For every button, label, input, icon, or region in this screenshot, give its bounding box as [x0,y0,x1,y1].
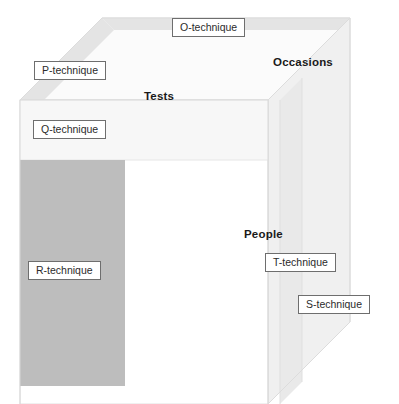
axis-label-tests: Tests [144,90,174,102]
cube-right-slab [280,78,302,404]
technique-box-p[interactable]: P-technique [34,61,106,80]
axis-label-occasions: Occasions [273,56,333,68]
technique-box-t[interactable]: T-technique [265,253,336,272]
technique-box-r[interactable]: R-technique [28,261,101,280]
technique-box-o[interactable]: O-technique [172,18,245,37]
technique-box-q[interactable]: Q-technique [33,120,106,139]
technique-box-s[interactable]: S-technique [298,295,370,314]
data-box-diagram: Tests Occasions People O-technique P-tec… [0,0,399,404]
axis-label-people: People [244,228,283,240]
